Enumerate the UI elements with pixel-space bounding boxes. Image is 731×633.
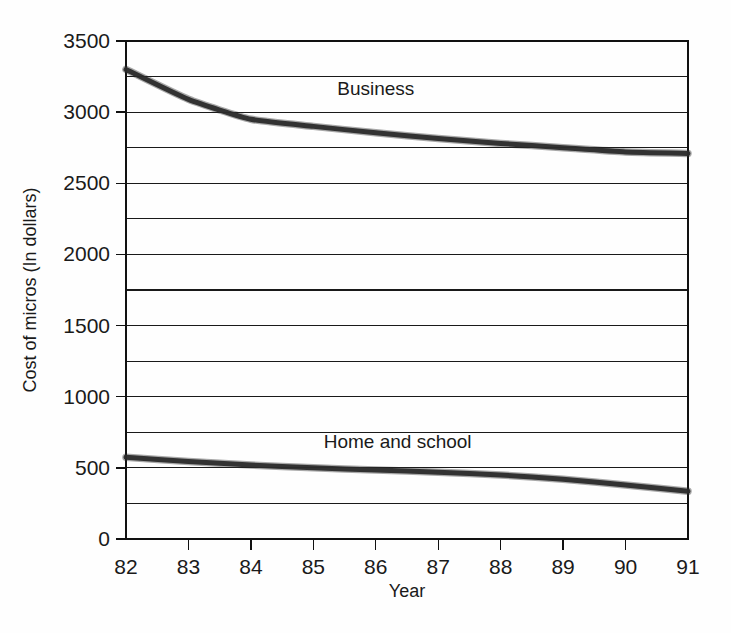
y-tick-label: 1500	[63, 314, 110, 337]
y-tick-label: 0	[98, 527, 110, 550]
x-tick-label: 83	[177, 555, 200, 578]
line-chart: 0500100015002000250030003500 82838485868…	[0, 0, 731, 633]
x-tick-label: 86	[364, 555, 387, 578]
y-tick-label: 3500	[63, 29, 110, 52]
series-label: Business	[337, 78, 414, 99]
x-tick-label: 82	[114, 555, 137, 578]
y-axis-title: Cost of micros (In dollars)	[20, 187, 40, 392]
series-label: Home and school	[324, 431, 472, 452]
y-tick-label: 500	[75, 456, 110, 479]
chart-page: 0500100015002000250030003500 82838485868…	[0, 0, 731, 633]
x-tick-label: 85	[302, 555, 325, 578]
y-tick-label: 2000	[63, 242, 110, 265]
x-tick-label: 89	[551, 555, 574, 578]
x-tick-label: 90	[614, 555, 637, 578]
x-tick-label: 87	[427, 555, 450, 578]
x-tick-label: 84	[239, 555, 263, 578]
y-tick-label: 1000	[63, 385, 110, 408]
y-tick-label: 3000	[63, 100, 110, 123]
x-axis-title: Year	[389, 581, 425, 601]
x-tick-label: 91	[676, 555, 699, 578]
y-tick-label: 2500	[63, 171, 110, 194]
x-tick-label: 88	[489, 555, 512, 578]
